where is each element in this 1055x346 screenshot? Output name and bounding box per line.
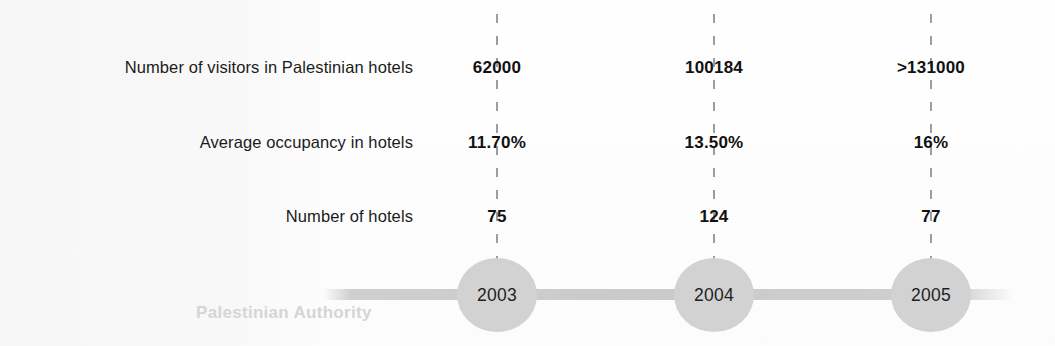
- timeline-node-label: 2004: [694, 285, 734, 306]
- value-visitors-2004: 100184: [685, 58, 743, 78]
- timeline-node-2004: 2004: [674, 258, 754, 332]
- value-occupancy-2004: 13.50%: [685, 133, 744, 153]
- value-occupancy-2003: 11.70%: [468, 133, 526, 153]
- timeline-node-label: 2003: [477, 285, 517, 306]
- infographic-canvas: Number of visitors in Palestinian hotels…: [0, 0, 1055, 346]
- row-label-occupancy: Average occupancy in hotels: [0, 133, 413, 152]
- value-visitors-2003: 62000: [473, 58, 521, 78]
- timeline-node-2003: 2003: [457, 258, 537, 332]
- timeline-node-label: 2005: [911, 285, 951, 306]
- row-label-visitors: Number of visitors in Palestinian hotels: [0, 58, 413, 77]
- timeline-node-2005: 2005: [891, 258, 971, 332]
- value-hotels-2003: 75: [487, 207, 506, 227]
- value-visitors-2005: >131000: [897, 58, 965, 78]
- source-caption: Palestinian Authority: [196, 303, 372, 323]
- row-label-hotels: Number of hotels: [0, 207, 413, 226]
- value-hotels-2004: 124: [700, 207, 729, 227]
- paper-tint-left: [0, 0, 320, 346]
- value-occupancy-2005: 16%: [914, 133, 949, 153]
- value-hotels-2005: 77: [921, 207, 940, 227]
